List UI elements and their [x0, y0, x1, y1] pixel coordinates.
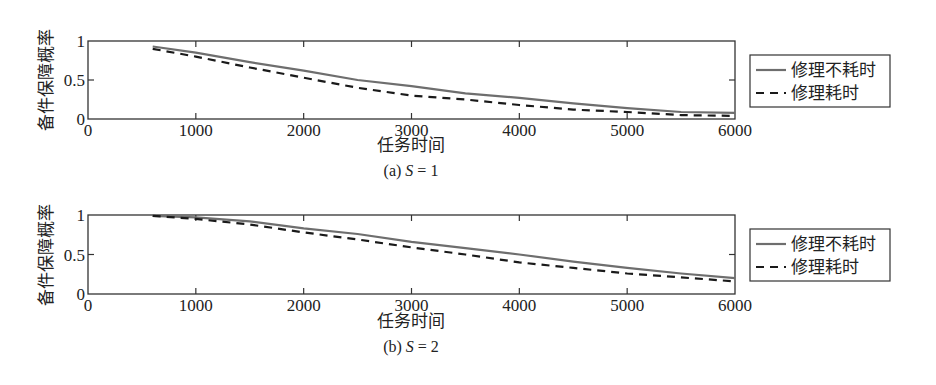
legend-label-repair-time: 修理耗时 — [791, 84, 859, 103]
y-tick-label: 0 — [77, 285, 86, 304]
series-line-repair-time — [153, 49, 735, 116]
tick-marks — [88, 41, 735, 119]
figure: 备件保障概率 010002000300040005000600000.51 任务… — [0, 0, 936, 385]
legend: 修理不耗时 修理耗时 — [750, 229, 890, 281]
x-axis-label: 任务时间 — [377, 136, 445, 155]
x-tick-label: 0 — [84, 296, 93, 315]
legend-label-repair-no-time: 修理不耗时 — [791, 235, 876, 254]
x-tick-label: 2000 — [287, 296, 321, 315]
panel-caption: (a) S = 1 — [384, 162, 439, 180]
legend-label-repair-no-time: 修理不耗时 — [791, 61, 876, 80]
tick-labels: 010002000300040005000600000.51 — [64, 206, 752, 315]
x-axis-label: 任务时间 — [377, 312, 445, 331]
legend: 修理不耗时 修理耗时 — [750, 55, 890, 107]
x-tick-label: 2000 — [287, 121, 321, 140]
figure-svg: 备件保障概率 010002000300040005000600000.51 任务… — [0, 0, 936, 385]
y-axis-label: 备件保障概率 — [37, 204, 56, 306]
x-tick-label: 4000 — [502, 296, 536, 315]
tick-marks — [88, 215, 735, 294]
x-tick-label: 6000 — [718, 121, 752, 140]
chart-panel-a: 备件保障概率 010002000300040005000600000.51 任务… — [37, 29, 890, 180]
y-tick-label: 0.5 — [64, 246, 85, 265]
series-line-repair-no-time — [153, 47, 735, 113]
x-tick-label: 0 — [84, 121, 93, 140]
legend-label-repair-time: 修理耗时 — [791, 258, 859, 277]
x-tick-label: 5000 — [610, 296, 644, 315]
chart-panel-b: 备件保障概率 010002000300040005000600000.51 任务… — [37, 204, 890, 356]
x-tick-label: 1000 — [179, 296, 213, 315]
panel-caption: (b) S = 2 — [383, 338, 439, 356]
y-tick-label: 1 — [77, 32, 86, 51]
series-line-repair-time — [153, 216, 735, 282]
x-tick-label: 4000 — [502, 121, 536, 140]
y-axis-label: 备件保障概率 — [37, 29, 56, 131]
x-tick-label: 5000 — [610, 121, 644, 140]
y-tick-label: 0.5 — [64, 71, 85, 90]
x-tick-label: 6000 — [718, 296, 752, 315]
x-tick-label: 1000 — [179, 121, 213, 140]
y-tick-label: 0 — [77, 110, 86, 129]
plot-area — [88, 215, 735, 294]
plot-area — [88, 41, 735, 119]
series-line-repair-no-time — [153, 216, 735, 278]
y-tick-label: 1 — [77, 206, 86, 225]
